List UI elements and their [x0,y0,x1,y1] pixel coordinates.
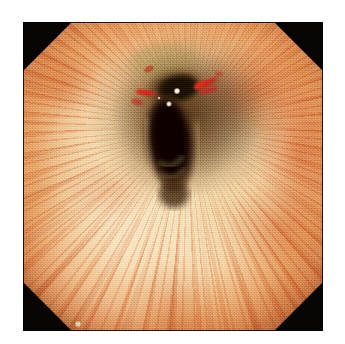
screenshot-canvas [0,0,345,344]
endoscopy-photo-frame [23,22,323,331]
endoscopic-field-of-view [23,22,323,331]
image-sensor-grain [23,22,323,331]
